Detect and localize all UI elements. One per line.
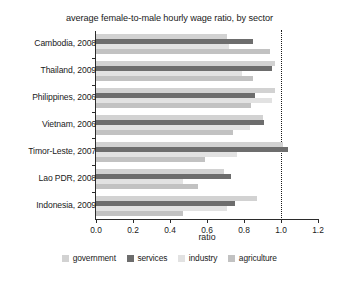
x-tick-mark [244, 219, 245, 223]
bar-row [96, 157, 318, 162]
y-tick-label: Vietnam, 2006 [42, 119, 96, 129]
y-tick-mark [92, 85, 96, 86]
plot-area: 0.00.20.40.60.81.01.2 [96, 31, 318, 219]
legend-label: agriculture [239, 253, 277, 263]
x-tick-mark [318, 219, 319, 223]
y-tick-mark [92, 138, 96, 139]
country-group [96, 58, 318, 85]
country-group [96, 165, 318, 192]
y-tick-mark [92, 58, 96, 59]
bar-row [96, 49, 318, 54]
bar-row [96, 76, 318, 81]
bar-row [96, 103, 318, 108]
bar-agriculture[interactable] [96, 157, 205, 162]
x-tick-mark [170, 219, 171, 223]
x-axis-title: ratio [96, 232, 318, 242]
legend-item-industry[interactable]: industry [178, 253, 217, 263]
legend-item-services[interactable]: services [127, 253, 167, 263]
country-group [96, 31, 318, 58]
country-group [96, 138, 318, 165]
legend-swatch-government [62, 255, 69, 262]
legend-swatch-services [127, 255, 134, 262]
chart-title: average female-to-male hourly wage ratio… [0, 13, 339, 23]
legend-swatch-industry [178, 255, 185, 262]
bar-row [96, 130, 318, 135]
bar-agriculture[interactable] [96, 211, 183, 216]
country-group [96, 112, 318, 139]
y-tick-label: Philippines, 2006 [32, 92, 96, 102]
bar-agriculture[interactable] [96, 130, 233, 135]
legend-label: industry [189, 253, 218, 263]
bar-row [96, 184, 318, 189]
y-tick-mark [92, 165, 96, 166]
bar-agriculture[interactable] [96, 184, 198, 189]
x-tick-mark [96, 219, 97, 223]
y-tick-mark [92, 112, 96, 113]
legend-item-government[interactable]: government [62, 253, 116, 263]
legend-label: services [137, 253, 167, 263]
x-tick-mark [133, 219, 134, 223]
y-tick-label: Lao PDR, 2008 [39, 173, 96, 183]
bar-agriculture[interactable] [96, 49, 270, 54]
bar-agriculture[interactable] [96, 103, 251, 108]
legend-item-agriculture[interactable]: agriculture [228, 253, 277, 263]
chart-container: average female-to-male hourly wage ratio… [0, 0, 339, 283]
y-tick-label: Timor-Leste, 2007 [28, 146, 96, 156]
chart-legend: governmentservicesindustryagriculture [0, 253, 339, 263]
x-tick-mark [281, 219, 282, 223]
bar-agriculture[interactable] [96, 76, 253, 81]
y-tick-mark [92, 192, 96, 193]
country-group [96, 85, 318, 112]
y-tick-label: Thailand, 2009 [41, 65, 96, 75]
country-group [96, 192, 318, 219]
legend-swatch-agriculture [228, 255, 235, 262]
x-tick-mark [207, 219, 208, 223]
y-tick-label: Cambodia, 2008 [34, 38, 96, 48]
y-tick-label: Indonesia, 2009 [36, 200, 96, 210]
legend-label: government [73, 253, 116, 263]
bar-row [96, 211, 318, 216]
